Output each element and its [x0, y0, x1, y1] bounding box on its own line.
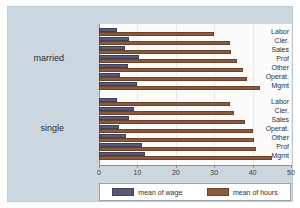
bar-hours: [99, 32, 214, 36]
category-label: Prof: [206, 54, 292, 63]
category-label: Sales: [206, 45, 292, 54]
x-axis-tick-label: 50: [280, 168, 300, 177]
x-axis-line: [99, 165, 291, 166]
group-label-married: married: [16, 53, 64, 63]
chart-screenshot: 01020304050 LaborCler.SalesProfOtherOper…: [0, 0, 300, 208]
legend-entry-hours: mean of hours: [207, 188, 278, 197]
group-label-single: single: [16, 123, 64, 133]
category-label: Other: [206, 63, 292, 72]
x-axis-tick-label: 40: [242, 168, 264, 177]
category-label: Prof: [206, 142, 292, 151]
chart-legend: mean of wage mean of hours: [99, 183, 291, 201]
category-label: Mgmt: [206, 81, 292, 90]
category-label: Mgmt: [206, 151, 292, 160]
category-label: Cler.: [206, 106, 292, 115]
legend-swatch-wage: [112, 188, 134, 196]
x-axis-tick-label: 10: [126, 168, 148, 177]
legend-swatch-hours: [207, 188, 229, 196]
figure-canvas: 01020304050 LaborCler.SalesProfOtherOper…: [7, 6, 293, 202]
category-label: Labor: [206, 97, 292, 106]
x-axis-tick-label: 20: [165, 168, 187, 177]
legend-entry-wage: mean of wage: [112, 188, 182, 197]
category-label: Operat.: [206, 124, 292, 133]
x-axis-tick-label: 30: [203, 168, 225, 177]
category-label: Labor: [206, 27, 292, 36]
category-label: Other: [206, 133, 292, 142]
legend-label-hours: mean of hours: [233, 188, 278, 197]
category-label: Operat.: [206, 72, 292, 81]
legend-label-wage: mean of wage: [138, 188, 182, 197]
category-label: Sales: [206, 115, 292, 124]
category-label: Cler.: [206, 36, 292, 45]
x-axis-tick-label: 0: [88, 168, 110, 177]
gridline: [176, 24, 177, 165]
